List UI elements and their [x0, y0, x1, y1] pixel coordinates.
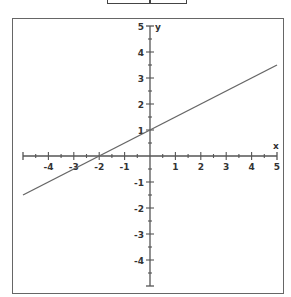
x-tick-label: 2	[198, 162, 204, 172]
x-tick-label: 5	[274, 162, 280, 172]
y-tick-label: -1	[134, 178, 144, 188]
y-tick-label: -4	[134, 256, 144, 266]
x-tick-label: -2	[94, 162, 104, 172]
x-tick-label: 1	[172, 162, 178, 172]
y-tick-label: -2	[134, 204, 144, 214]
y-axis-label: y	[155, 22, 161, 32]
x-tick-label: 4	[248, 162, 254, 172]
x-axis-label: x	[273, 141, 279, 151]
y-tick-label: 5	[138, 22, 144, 32]
x-tick-label: -4	[43, 162, 53, 172]
y-tick-label: 4	[138, 48, 144, 58]
x-tick-label: 3	[223, 162, 229, 172]
x-tick-label: -1	[120, 162, 130, 172]
coordinate-plane: -4-3-2-11234554321-1-2-3-4 x y	[0, 0, 291, 297]
y-tick-label: 2	[138, 100, 144, 110]
y-tick-label: 3	[138, 74, 144, 84]
y-tick-label: -3	[134, 230, 144, 240]
tick-labels: -4-3-2-11234554321-1-2-3-4	[43, 22, 280, 266]
